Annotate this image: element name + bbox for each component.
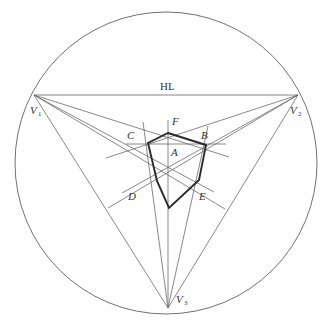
- point-f-label: F: [171, 115, 179, 127]
- vanishing-point-v2-label: V 2: [290, 104, 302, 118]
- point-b-label: B: [201, 129, 208, 141]
- point-d-label: D: [127, 190, 136, 202]
- svg-text:V: V: [290, 104, 298, 116]
- cone-of-vision-circle: [15, 12, 317, 314]
- vanishing-point-v3-label: V 3: [176, 293, 188, 307]
- horizon-label: HL: [160, 80, 175, 92]
- point-c-label: C: [127, 129, 135, 141]
- svg-text:V: V: [176, 293, 184, 305]
- svg-text:V: V: [30, 104, 38, 116]
- svg-text:3: 3: [184, 299, 188, 307]
- svg-text:2: 2: [298, 110, 302, 118]
- svg-text:1: 1: [38, 110, 42, 118]
- perspective-diagram: HL V 1 V 2 V 3 F C B A D E: [0, 0, 325, 325]
- vanishing-point-v1-label: V 1: [30, 104, 42, 118]
- point-a-label: A: [170, 146, 178, 158]
- point-e-label: E: [198, 190, 206, 202]
